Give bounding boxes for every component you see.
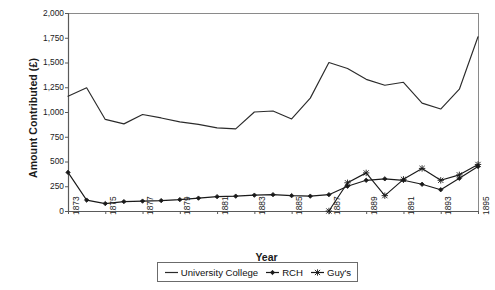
plot-area: [0, 0, 495, 290]
legend-item-label: RCH: [282, 267, 303, 278]
legend-item[interactable]: Guy's: [310, 267, 351, 278]
data-point-marker: [196, 196, 200, 200]
data-point-marker: [252, 193, 256, 197]
data-point-marker: [103, 201, 107, 205]
data-point-marker: [344, 180, 350, 186]
legend-item[interactable]: University College: [164, 267, 258, 278]
legend-item-label: University College: [181, 267, 258, 278]
plot-frame: [69, 14, 479, 212]
data-point-marker: [271, 192, 275, 196]
legend-item[interactable]: RCH: [265, 267, 303, 278]
series-university-college: [68, 37, 478, 129]
series-guy-s: [326, 161, 481, 214]
data-point-marker: [363, 170, 369, 176]
data-point-marker: [327, 192, 331, 196]
line-chart: Amount Contributed (£) 02505007501,0001,…: [0, 0, 495, 290]
data-point-marker: [326, 208, 332, 214]
series-line: [68, 37, 478, 129]
data-point-marker: [270, 270, 274, 274]
data-point-marker: [364, 178, 368, 182]
data-point-marker: [475, 161, 481, 167]
data-point-marker: [178, 197, 182, 201]
data-point-marker: [382, 192, 388, 198]
data-point-marker: [159, 198, 163, 202]
data-point-marker: [314, 269, 320, 275]
data-point-marker: [400, 176, 406, 182]
data-point-marker: [215, 194, 219, 198]
series-line: [329, 164, 478, 211]
data-point-marker: [289, 193, 293, 197]
data-point-marker: [308, 194, 312, 198]
legend-key-icon: [265, 267, 280, 278]
data-point-marker: [140, 199, 144, 203]
data-point-marker: [438, 177, 444, 183]
data-point-marker: [383, 177, 387, 181]
data-point-marker: [420, 182, 424, 186]
data-point-marker: [456, 172, 462, 178]
data-point-marker: [122, 199, 126, 203]
chart-legend: University CollegeRCHGuy's: [157, 262, 358, 282]
legend-key-icon: [164, 267, 179, 278]
legend-key-icon: [310, 267, 325, 278]
data-point-marker: [419, 165, 425, 171]
data-point-marker: [234, 194, 238, 198]
legend-item-label: Guy's: [327, 267, 351, 278]
